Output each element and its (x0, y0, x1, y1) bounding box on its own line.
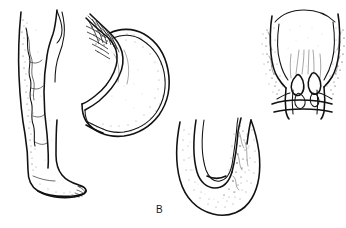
figure-illustration-canvas (0, 0, 346, 228)
figure-background (0, 0, 346, 228)
figure-panel-b: B (0, 0, 346, 228)
panel-label-b: B (156, 205, 163, 215)
